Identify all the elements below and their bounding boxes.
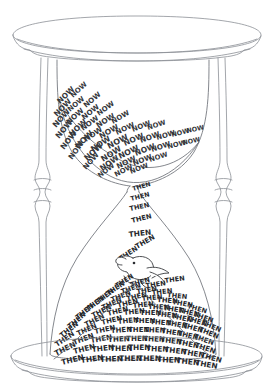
falling-then-word: THEN [131,212,153,225]
falling-then-word: THEN [131,180,151,192]
top-cap [13,16,261,61]
right-post [215,58,232,356]
left-post [34,58,51,356]
falling-then-word: THEN [164,274,185,285]
illustration-canvas: NOWNOWNOWNOWNOWNOWNOWNOWNOWNOWNOWNOWNOWN… [0,0,273,392]
now-word-cluster: NOWNOWNOWNOWNOWNOWNOWNOWNOWNOWNOWNOWNOWN… [51,80,205,179]
now-word: NOW [182,135,201,147]
